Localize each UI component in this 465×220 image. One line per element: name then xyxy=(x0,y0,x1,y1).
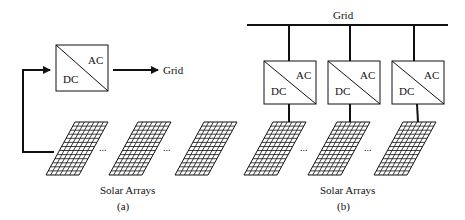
solar-arrays-label-b: Solar Arrays xyxy=(320,185,375,196)
caption-b: (b) xyxy=(337,201,350,212)
solar-panel-b1 xyxy=(244,122,306,175)
ac-label-b3: AC xyxy=(424,70,439,81)
ac-label-b2: AC xyxy=(360,70,375,81)
dc-label-b3: DC xyxy=(399,86,414,97)
solar-panel-b2 xyxy=(308,122,370,175)
ellipsis-b1: ... xyxy=(300,143,308,153)
caption-a: (a) xyxy=(117,201,129,212)
ac-label-a: AC xyxy=(88,55,103,66)
ellipsis-b2: ... xyxy=(364,143,372,153)
diagram-canvas xyxy=(0,0,465,220)
feed-line-a xyxy=(23,70,54,152)
grid-label-b: Grid xyxy=(333,10,353,21)
grid-label-a: Grid xyxy=(163,65,183,76)
ac-label-b1: AC xyxy=(296,70,311,81)
solar-panel-a2 xyxy=(109,122,171,175)
solar-arrays-label-a: Solar Arrays xyxy=(100,185,155,196)
ellipsis-a1: ... xyxy=(99,143,107,153)
dc-label-b1: DC xyxy=(271,86,286,97)
dc-label-b2: DC xyxy=(335,86,350,97)
dc-label-a: DC xyxy=(63,74,78,85)
ellipsis-a2: ... xyxy=(163,143,171,153)
panel-a xyxy=(23,45,237,175)
panel-b xyxy=(244,25,448,175)
solar-panel-b3 xyxy=(374,122,436,175)
solar-panel-a3 xyxy=(175,122,237,175)
